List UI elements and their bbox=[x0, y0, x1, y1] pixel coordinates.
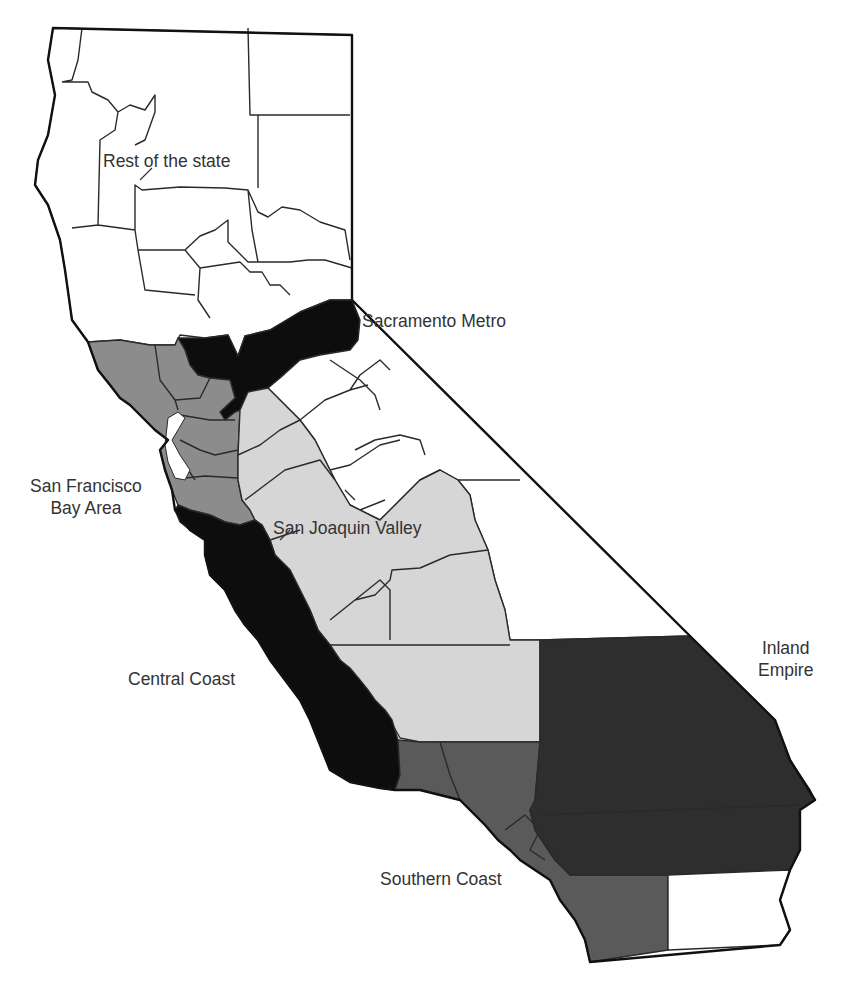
label-central-coast: Central Coast bbox=[128, 668, 235, 690]
region-rest-of-state-imperial[interactable] bbox=[668, 870, 790, 950]
label-sf-line1: San Francisco bbox=[30, 475, 142, 497]
label-san-joaquin-valley: San Joaquin Valley bbox=[273, 517, 422, 539]
label-southern-coast: Southern Coast bbox=[380, 868, 502, 890]
label-rest-of-state: Rest of the state bbox=[103, 150, 230, 172]
label-inland-empire: Inland Empire bbox=[758, 637, 813, 681]
label-sacramento-metro: Sacramento Metro bbox=[362, 310, 506, 332]
label-sf-bay-area: San Francisco Bay Area bbox=[30, 475, 142, 519]
label-inland-line1: Inland bbox=[758, 637, 813, 659]
region-rest-of-state[interactable] bbox=[35, 28, 352, 356]
label-sf-line2: Bay Area bbox=[30, 497, 142, 519]
label-inland-line2: Empire bbox=[758, 659, 813, 681]
